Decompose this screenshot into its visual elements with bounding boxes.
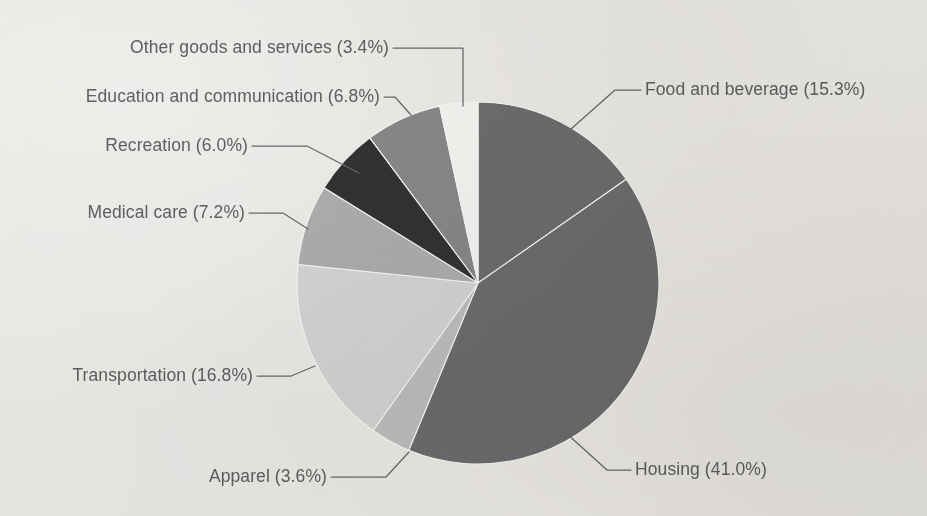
pie-chart-canvas bbox=[0, 0, 927, 516]
leader-line-housing bbox=[566, 433, 631, 470]
leader-line-apparel bbox=[331, 452, 409, 477]
leader-line-medical-care bbox=[249, 213, 308, 229]
pie-chart-figure: Food and beverage (15.3%) Housing (41.0%… bbox=[0, 0, 927, 516]
leader-line-food-and-beverage bbox=[571, 90, 641, 129]
pie-label-transportation: Transportation (16.8%) bbox=[72, 367, 253, 385]
pie-label-education-and-communication: Education and communication (6.8%) bbox=[86, 88, 380, 106]
pie-label-housing: Housing (41.0%) bbox=[635, 461, 767, 479]
pie-slices-group bbox=[297, 102, 659, 464]
leader-line-other-goods-and-services bbox=[393, 48, 463, 106]
pie-label-medical-care: Medical care (7.2%) bbox=[87, 204, 245, 222]
pie-label-other-goods-and-services: Other goods and services (3.4%) bbox=[130, 39, 389, 57]
leader-line-education-and-communication bbox=[384, 97, 411, 115]
pie-label-apparel: Apparel (3.6%) bbox=[209, 468, 327, 486]
pie-label-food-and-beverage: Food and beverage (15.3%) bbox=[645, 81, 865, 99]
leader-line-transportation bbox=[257, 366, 315, 376]
pie-label-recreation: Recreation (6.0%) bbox=[105, 137, 248, 155]
